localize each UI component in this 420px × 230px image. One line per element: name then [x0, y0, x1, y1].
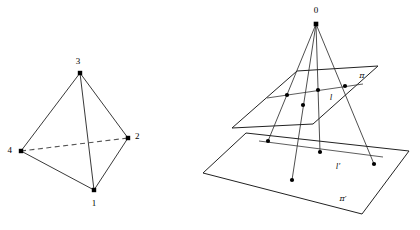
- projection-ray: [268, 24, 316, 141]
- figure-root: 1234 0ππ′ll′: [0, 0, 420, 230]
- point-on-line-l-prime: [372, 162, 376, 166]
- projection-labels: 0ππ′ll′: [314, 5, 366, 203]
- line-l-upper: [267, 84, 363, 98]
- line-l-prime-label: l′: [336, 161, 342, 171]
- point-on-line-l: [316, 88, 320, 92]
- projection-point-dots: [266, 22, 376, 182]
- projection-rays-group: [268, 24, 374, 180]
- plane-lower-outline: [203, 133, 409, 214]
- projection-diagram: 0ππ′ll′: [0, 0, 420, 230]
- point-on-line-l-prime: [318, 150, 322, 154]
- plane-lower-label: π′: [338, 194, 346, 203]
- point-on-line-l: [343, 84, 347, 88]
- point-on-line-l: [301, 103, 305, 107]
- point-on-line-l: [285, 93, 289, 97]
- point-on-line-l-prime: [290, 178, 294, 182]
- point-on-line-l-prime: [266, 139, 270, 143]
- plane-upper-label: π: [358, 71, 365, 80]
- center-point-dot: [314, 22, 319, 27]
- projection-ray: [292, 24, 316, 180]
- center-point-label: 0: [314, 5, 319, 15]
- line-l-label: l: [330, 92, 333, 102]
- projection-ray: [316, 24, 374, 164]
- line-l-prime-lower: [259, 141, 383, 157]
